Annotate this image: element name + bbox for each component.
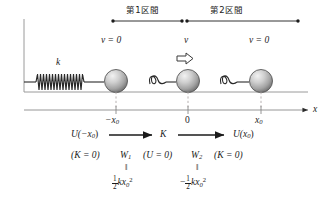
velocity-label-left: v = 0 xyxy=(101,36,121,46)
condition-right: (K = 0) xyxy=(214,151,243,161)
tick-x0: x0 xyxy=(255,116,263,126)
condition-left: (K = 0) xyxy=(71,151,100,161)
work-2-sub: 2 xyxy=(199,153,202,160)
motion-arrow-icon xyxy=(177,53,193,64)
work-value-2-sup: 2 xyxy=(203,176,206,183)
energy-left-close: ) xyxy=(95,129,98,139)
spring-constant-label: k xyxy=(56,58,60,68)
x-axis-group xyxy=(24,106,308,114)
tick-minus-x0-sub: 0 xyxy=(116,118,119,125)
energy-left: U(−x0) xyxy=(71,130,98,140)
diagram-canvas xyxy=(0,0,330,205)
mass-ball-left xyxy=(105,70,128,93)
work-2: W2 xyxy=(191,151,202,161)
x-axis-label: x xyxy=(313,105,317,115)
mass-ball-middle xyxy=(177,70,200,93)
tick-minus-x0: −x0 xyxy=(105,116,119,126)
relaxed-spring-right xyxy=(221,76,249,84)
work-2-text: W xyxy=(191,150,199,160)
work-value-1-expr: kx xyxy=(118,177,126,187)
tick-zero-text: 0 xyxy=(185,115,190,125)
work-value-1: 12kx02 xyxy=(112,176,133,191)
energy-right-close: ) xyxy=(251,129,254,139)
tick-zero: 0 xyxy=(185,116,190,126)
tick-x0-sub: 0 xyxy=(259,118,262,125)
work-1-sub: 1 xyxy=(128,153,131,160)
condition-middle: (U = 0) xyxy=(143,151,172,161)
relaxed-spring-middle xyxy=(150,76,176,84)
section-2-label: 第2区間 xyxy=(210,6,244,15)
equals-mark-2: ‖ xyxy=(196,163,199,172)
tick-minus-x0-text: −x xyxy=(105,115,116,125)
velocity-label-right: v = 0 xyxy=(249,36,269,46)
physics-diagram: 第1区間 第2区間 v = 0 v v = 0 k x −x0 0 x0 U(−… xyxy=(0,0,330,205)
work-value-1-sup: 2 xyxy=(129,176,132,183)
energy-left-fn: U(−x xyxy=(71,129,92,139)
energy-right: U(x0) xyxy=(233,130,254,140)
work-1: W1 xyxy=(120,151,131,161)
work-1-text: W xyxy=(120,150,128,160)
work-value-2: −12kx02 xyxy=(180,176,206,191)
velocity-label-middle: v xyxy=(184,36,188,46)
mass-ball-right xyxy=(250,70,273,93)
section-1-label: 第1区間 xyxy=(126,6,160,15)
energy-right-fn: U(x xyxy=(233,129,247,139)
equals-mark-1: ‖ xyxy=(125,163,128,172)
energy-middle: K xyxy=(160,130,166,140)
compressed-spring xyxy=(24,74,104,90)
